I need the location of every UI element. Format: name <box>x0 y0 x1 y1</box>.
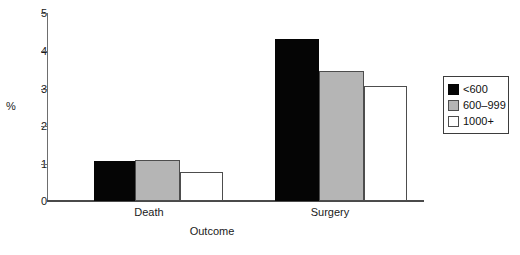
bar-surgery-lt600 <box>275 39 319 201</box>
bar-death-lt600 <box>94 161 135 201</box>
legend-label-600-999: 600–999 <box>463 100 506 111</box>
y-tick-label-0: 0 <box>27 196 47 207</box>
bar-surgery-1000plus <box>364 86 407 201</box>
y-tick-2: 2 <box>0 121 47 132</box>
legend-swatch-black-icon <box>448 84 459 95</box>
bar-death-1000plus <box>180 172 223 201</box>
y-tick-mark-5 <box>41 13 47 14</box>
category-label-surgery: Surgery <box>275 206 385 218</box>
legend-label-lt600: <600 <box>463 84 488 95</box>
x-axis-title: Outcome <box>0 225 424 237</box>
legend-item-lt600[interactable]: <600 <box>448 81 504 97</box>
y-tick-5: 5 <box>0 8 47 19</box>
y-tick-mark-2 <box>41 126 47 127</box>
plot-area <box>48 13 424 201</box>
y-tick-mark-4 <box>41 51 47 52</box>
legend-label-1000plus: 1000+ <box>463 116 494 127</box>
bar-surgery-600-999 <box>319 71 364 201</box>
y-tick-3: 3 <box>0 84 47 95</box>
y-tick-mark-3 <box>41 89 47 90</box>
bar-death-600-999 <box>135 160 180 201</box>
legend: <600 600–999 1000+ <box>443 76 509 134</box>
bar-chart-figure: 5 4 3 2 1 0 % Outcome Death Surgery <box>0 0 520 255</box>
legend-swatch-gray-icon <box>448 100 459 111</box>
y-tick-mark-1 <box>41 164 47 165</box>
y-axis-title: % <box>6 101 16 112</box>
legend-swatch-white-icon <box>448 116 459 127</box>
legend-item-1000plus[interactable]: 1000+ <box>448 113 504 129</box>
category-label-death: Death <box>94 206 204 218</box>
y-tick-1: 1 <box>0 159 47 170</box>
y-tick-4: 4 <box>0 46 47 57</box>
y-tick-0: 0 <box>0 196 47 207</box>
legend-item-600-999[interactable]: 600–999 <box>448 97 504 113</box>
